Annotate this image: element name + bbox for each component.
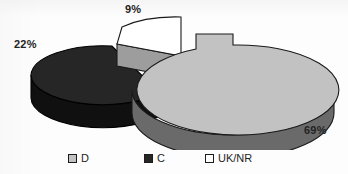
legend-item-c[interactable]: C: [144, 153, 165, 164]
legend-label-uknr: UK/NR: [218, 153, 252, 164]
data-label-d: 69%: [304, 124, 327, 136]
legend-swatch-d-icon: [68, 154, 77, 163]
pie-plot-area: [0, 0, 348, 150]
legend-item-d[interactable]: D: [68, 153, 89, 164]
legend-swatch-uknr-icon: [205, 154, 214, 163]
pie-svg: [0, 0, 348, 150]
legend-swatch-c-icon: [144, 154, 153, 163]
legend-label-c: C: [157, 153, 165, 164]
legend-item-uknr[interactable]: UK/NR: [205, 153, 252, 164]
chart-legend: D C UK/NR: [0, 150, 348, 174]
pie-chart-figure: 9% 22% 69% D C UK/NR: [0, 0, 348, 174]
data-label-c: 22%: [14, 38, 37, 50]
data-label-uknr: 9%: [125, 3, 141, 15]
legend-label-d: D: [81, 153, 89, 164]
